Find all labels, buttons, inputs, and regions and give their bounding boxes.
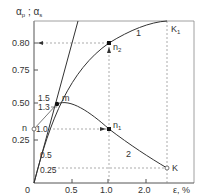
x-axis-ticks: 0 0.5 1.0 2.0 ε, % — [25, 179, 190, 195]
chart: αp ; αs 0.80 0.75 0.50 0.25 n 0 0.5 1.0 … — [0, 0, 202, 196]
svg-text:K: K — [172, 163, 178, 173]
point-K1-label: K1 — [171, 24, 181, 35]
y-tick-0.80: 0.80 — [12, 38, 30, 48]
diag-tick-0.25: 0.25 — [40, 165, 57, 175]
x-tick-2.0: 2.0 — [138, 185, 151, 195]
curve-2-label: 2 — [126, 149, 131, 159]
arrow-to-0.80 — [38, 41, 43, 45]
svg-text:n1: n1 — [113, 120, 122, 131]
arrow-up-n2 — [107, 47, 111, 53]
arrow-to-n1 — [100, 127, 106, 131]
data-points: m n1 n2 K K1 — [32, 24, 181, 173]
diag-tick-1.3: 1.3 — [38, 102, 50, 112]
svg-text:m: m — [62, 93, 70, 103]
diag-tick-1.5: 1.5 — [38, 93, 50, 103]
point-K — [165, 166, 169, 170]
point-m — [55, 102, 59, 106]
curve-1 — [34, 21, 167, 183]
y-axis-label: αp ; αs — [16, 6, 42, 18]
point-n2 — [107, 41, 111, 45]
x-tick-0.5: 0.5 — [65, 185, 78, 195]
curve-2 — [57, 103, 167, 168]
y-tick-0.25: 0.25 — [12, 135, 30, 145]
diag-tick-1.0: 1.0 — [36, 124, 48, 134]
y-extra-label-n: n — [22, 123, 27, 133]
point-n1 — [107, 127, 111, 131]
y-tick-0.50: 0.50 — [12, 98, 30, 108]
curve-1-label: 1 — [136, 28, 141, 38]
x-tick-1.0: 1.0 — [100, 185, 113, 195]
point-n — [32, 127, 36, 131]
svg-text:n2: n2 — [113, 42, 122, 53]
y-tick-0.75: 0.75 — [12, 65, 30, 75]
x-axis-label: ε, % — [173, 185, 190, 195]
x-tick-0: 0 — [25, 185, 30, 195]
